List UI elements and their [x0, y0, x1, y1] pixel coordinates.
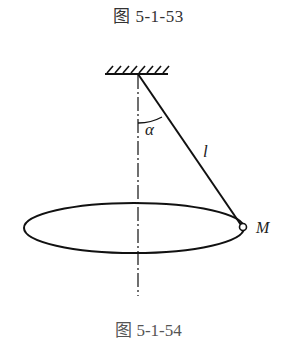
pendulum-string	[138, 74, 241, 225]
figure-caption-bottom: 图 5-1-54	[0, 316, 297, 341]
ceiling-support	[105, 66, 169, 74]
point-label: M	[255, 219, 271, 236]
orbit-ellipse	[24, 203, 244, 253]
length-label: l	[203, 142, 208, 161]
angle-label: α	[145, 120, 155, 139]
bob-point	[240, 224, 247, 231]
